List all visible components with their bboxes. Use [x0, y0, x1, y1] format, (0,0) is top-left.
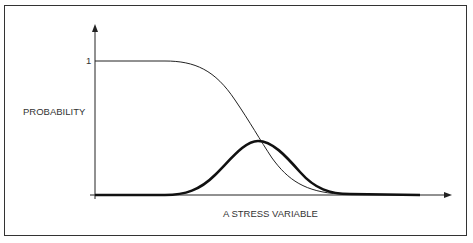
diagram-canvas: [0, 0, 473, 243]
sigmoid-curve: [95, 61, 360, 194]
y-axis-label: PROBABILITY: [23, 106, 85, 117]
bell-curve: [95, 141, 420, 195]
x-axis-arrow-icon: [444, 192, 452, 198]
y-tick-label: 1: [86, 55, 91, 66]
y-axis-arrow-icon: [92, 24, 98, 32]
y-axis: [92, 24, 98, 199]
x-axis-label: A STRESS VARIABLE: [223, 208, 318, 219]
